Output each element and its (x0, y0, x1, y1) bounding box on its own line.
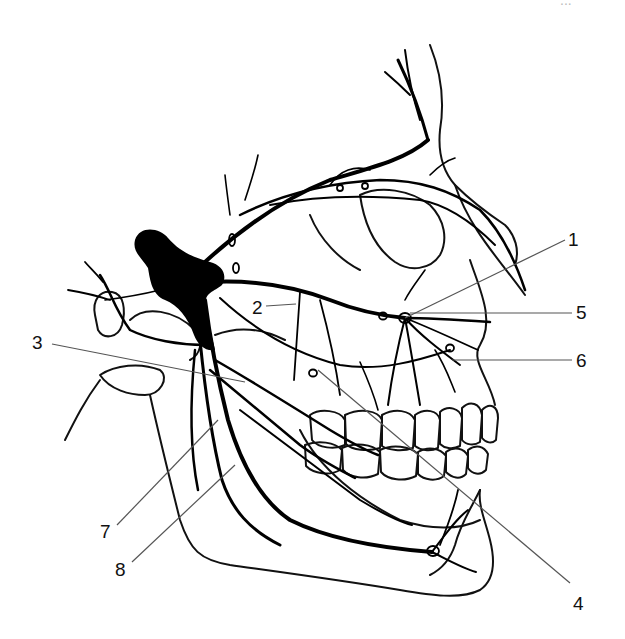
leader-7 (117, 420, 218, 525)
label-2: 2 (252, 298, 263, 317)
leader-2 (266, 304, 296, 306)
label-7: 7 (100, 522, 111, 541)
anatomical-diagram (0, 0, 625, 639)
label-5: 5 (576, 303, 587, 322)
nerve-branches (68, 50, 525, 572)
label-6: 6 (576, 351, 587, 370)
label-1: 1 (568, 230, 579, 249)
leader-lines (52, 240, 572, 583)
label-8: 8 (115, 560, 126, 579)
label-4: 4 (573, 594, 584, 613)
leader-8 (132, 465, 235, 562)
small-ganglia (229, 183, 454, 556)
label-3: 3 (32, 333, 43, 352)
